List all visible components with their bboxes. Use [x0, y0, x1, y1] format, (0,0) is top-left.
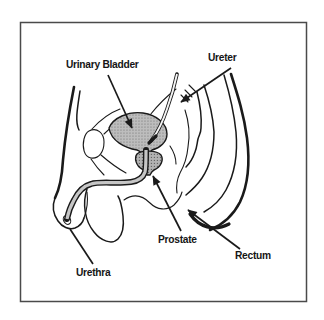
prostate-label: Prostate — [158, 233, 197, 245]
urethra-label: Urethra — [76, 266, 110, 278]
urinary-bladder-label: Urinary Bladder — [66, 58, 139, 70]
rectum-label: Rectum — [235, 249, 271, 261]
ureter-label: Ureter — [208, 51, 236, 63]
figure-canvas: Urinary Bladder Ureter Prostate Rectum U… — [0, 0, 324, 320]
anatomy-illustration — [0, 0, 324, 320]
